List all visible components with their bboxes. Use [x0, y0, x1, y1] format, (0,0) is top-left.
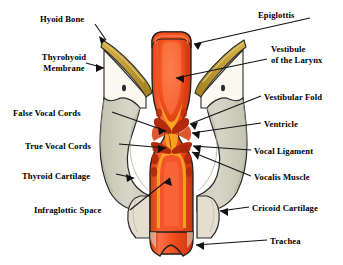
label-thyrohyoid-line1: Thyrohyoid [31, 52, 97, 63]
label-trachea: Trachea [270, 236, 301, 247]
label-vestibule-of-larynx: Vestibule of the Larynx [271, 44, 341, 65]
label-false-vocal-cords: False Vocal Cords [13, 108, 81, 119]
thyroid-cartilage-right [197, 98, 247, 211]
cricoid-cartilage-right [197, 196, 219, 238]
label-hyoid-bone: Hyoid Bone [40, 14, 84, 25]
label-thyrohyoid-line2: Membrane [31, 63, 97, 74]
label-thyroid-cartilage: Thyroid Cartilage [22, 171, 90, 182]
label-cricoid-cartilage: Cricoid Cartilage [252, 203, 318, 214]
label-vocalis-muscle: Vocalis Muscle [254, 172, 310, 183]
label-ventricle: Ventricle [264, 119, 298, 130]
label-epiglottis: Epiglottis [258, 10, 294, 21]
label-vestibular-fold: Vestibular Fold [264, 92, 322, 103]
membrane-marking-right [221, 85, 225, 91]
infraglottic-space [160, 155, 183, 230]
label-vocal-ligament: Vocal Ligament [254, 146, 313, 157]
membrane-marking-left [122, 85, 126, 91]
label-vestibule-line1: Vestibule [271, 44, 341, 55]
label-thyrohyoid-membrane: Thyrohyoid Membrane [31, 52, 97, 73]
larynx-diagram-svg [0, 0, 343, 265]
thyroid-cartilage-left [100, 98, 150, 211]
label-vestibule-line2: of the Larynx [271, 55, 341, 66]
label-infraglottic-space: Infraglottic Space [34, 205, 101, 216]
label-true-vocal-cords: True Vocal Cords [25, 141, 91, 152]
larynx-coronal-section-figure: Hyoid Bone Epiglottis Thyrohyoid Membran… [0, 0, 343, 265]
